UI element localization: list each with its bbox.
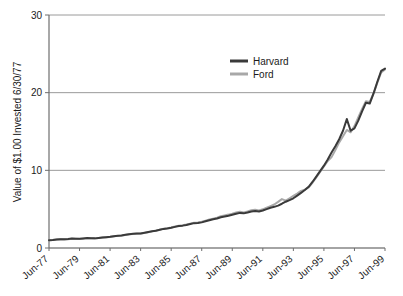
y-axis-title: Value of $1.00 Invested 6/30/77: [12, 61, 23, 202]
legend-label-harvard: Harvard: [253, 56, 289, 67]
y-tick-label: 10: [31, 165, 43, 176]
y-tick-label: 0: [36, 243, 42, 254]
chart-container: 0102030 Jun-77Jun-79Jun-81Jun-83Jun-85Ju…: [0, 0, 403, 296]
legend-label-ford: Ford: [253, 69, 274, 80]
chart-background: [0, 0, 403, 296]
y-tick-label: 20: [31, 87, 43, 98]
line-chart: 0102030 Jun-77Jun-79Jun-81Jun-83Jun-85Ju…: [0, 0, 403, 296]
y-tick-label: 30: [31, 10, 43, 21]
